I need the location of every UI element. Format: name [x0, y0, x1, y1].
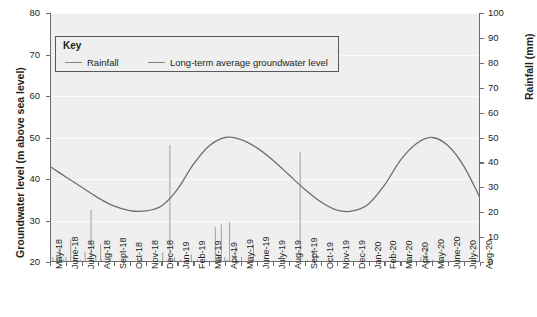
y-axis-right-label: 60: [488, 108, 514, 117]
y-axis-right-label: 50: [488, 133, 514, 142]
x-axis-tick: [98, 262, 99, 266]
y-axis-right-label: 30: [488, 182, 514, 191]
x-axis-tick: [337, 262, 338, 266]
x-axis-label: May-18: [54, 239, 64, 269]
x-axis-label: Oct-19: [325, 242, 335, 269]
groundwater-level-line: [50, 137, 480, 211]
x-axis-tick: [400, 262, 401, 266]
y-axis-right-tick: [480, 38, 484, 39]
x-axis-label: July-19: [277, 240, 287, 269]
x-axis-tick: [273, 262, 274, 266]
x-axis-label: July-18: [86, 240, 96, 269]
x-axis-label: Feb-19: [197, 240, 207, 269]
y-axis-left-tick: [46, 13, 50, 14]
y-axis-left-title: Groundwater level (m above sea level): [14, 67, 26, 258]
x-axis-tick: [480, 262, 481, 266]
y-axis-left-tick: [46, 96, 50, 97]
x-axis-label: Jan-19: [181, 241, 191, 269]
legend-swatch-groundwater: [148, 62, 165, 63]
x-axis-label: Aug-18: [102, 240, 112, 269]
y-axis-right-label: 80: [488, 58, 514, 67]
x-axis-label: Jan-20: [373, 241, 383, 269]
x-axis-label: Sept-19: [309, 237, 319, 269]
x-axis-tick: [177, 262, 178, 266]
x-axis-label: Mar-19: [213, 240, 223, 269]
x-axis-tick: [321, 262, 322, 266]
y-axis-right-tick: [480, 162, 484, 163]
y-axis-left-label: 20: [14, 257, 40, 266]
rainfall-groundwater-chart: 20304050607080 0102030405060708090100 Ma…: [0, 0, 537, 317]
x-axis-tick: [146, 262, 147, 266]
y-axis-right-tick: [480, 88, 484, 89]
x-axis-tick: [161, 262, 162, 266]
x-axis-label: Aug-20: [484, 240, 494, 269]
x-axis-label: Dec-18: [165, 240, 175, 269]
x-axis-tick: [50, 262, 51, 266]
x-axis-tick: [114, 262, 115, 266]
x-axis-label: Nov-18: [150, 240, 160, 269]
x-axis-label: May-19: [245, 239, 255, 269]
y-axis-right-tick: [480, 212, 484, 213]
y-axis-left-label: 80: [14, 8, 40, 17]
y-axis-right-tick: [480, 237, 484, 238]
y-axis-right-label: 20: [488, 207, 514, 216]
x-axis-tick: [241, 262, 242, 266]
x-axis-tick: [464, 262, 465, 266]
x-axis-tick: [130, 262, 131, 266]
legend-label-groundwater: Long-term average groundwater level: [170, 57, 328, 68]
x-axis-tick: [448, 262, 449, 266]
x-axis-tick: [432, 262, 433, 266]
y-axis-left-tick: [46, 55, 50, 56]
legend-swatch-rainfall: [65, 62, 82, 63]
x-axis-label: Dec-19: [357, 240, 367, 269]
x-axis-tick: [289, 262, 290, 266]
x-axis-label: July-20: [468, 240, 478, 269]
x-axis-tick: [257, 262, 258, 266]
x-axis-tick: [193, 262, 194, 266]
x-axis-label: Nov-19: [341, 240, 351, 269]
y-axis-right-tick: [480, 63, 484, 64]
y-axis-right-tick: [480, 113, 484, 114]
x-axis-label: Apr-20: [420, 242, 430, 269]
y-axis-left-line: [50, 13, 51, 262]
x-axis-tick: [305, 262, 306, 266]
x-axis-tick: [66, 262, 67, 266]
y-axis-left-tick: [46, 221, 50, 222]
x-axis-label: Aug-19: [293, 240, 303, 269]
y-axis-right-label: 40: [488, 157, 514, 166]
y-axis-right-title: Rainfall (mm): [523, 33, 535, 100]
x-axis-label: May-20: [436, 239, 446, 269]
y-axis-right-label: 100: [488, 8, 514, 17]
x-axis-tick: [369, 262, 370, 266]
y-axis-right-label: 90: [488, 33, 514, 42]
y-axis-right-label: 70: [488, 83, 514, 92]
x-axis-tick: [384, 262, 385, 266]
x-axis-tick: [225, 262, 226, 266]
y-axis-right-tick: [480, 138, 484, 139]
x-axis-label: June-18: [70, 236, 80, 269]
y-axis-right-tick: [480, 13, 484, 14]
x-axis-tick: [82, 262, 83, 266]
y-axis-left-label: 70: [14, 50, 40, 59]
x-axis-label: Mar-20: [404, 240, 414, 269]
x-axis-tick: [209, 262, 210, 266]
y-axis-left-tick: [46, 138, 50, 139]
legend: Key Rainfall Long-term average groundwat…: [55, 36, 339, 72]
x-axis-label: Oct-18: [134, 242, 144, 269]
legend-label-rainfall: Rainfall: [87, 57, 119, 68]
y-axis-left-tick: [46, 179, 50, 180]
x-axis-tick: [353, 262, 354, 266]
x-axis-label: June-19: [261, 236, 271, 269]
y-axis-right-tick: [480, 187, 484, 188]
legend-title: Key: [63, 40, 81, 51]
rainfall-bar: [100, 245, 101, 262]
x-axis-tick: [416, 262, 417, 266]
x-axis-label: Feb-20: [388, 240, 398, 269]
x-axis-label: June-20: [452, 236, 462, 269]
x-axis-label: Sept-18: [118, 237, 128, 269]
x-axis-label: Apr-19: [229, 242, 239, 269]
